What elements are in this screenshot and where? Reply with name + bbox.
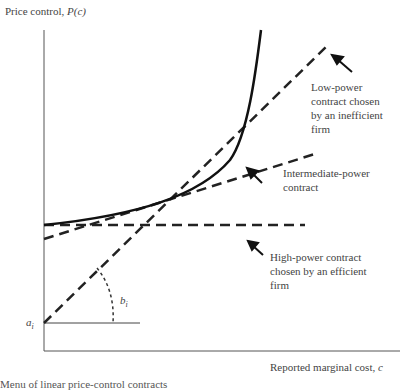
- annotation-line: High-power contract: [270, 250, 367, 264]
- intercept-label: ai: [26, 315, 34, 334]
- y-axis-symbol: P(c): [67, 5, 86, 17]
- cost-curve: [44, 30, 261, 225]
- y-axis-label: Price control, P(c): [5, 4, 86, 18]
- slope-label: bi: [120, 293, 128, 312]
- annotation-line: contract: [283, 180, 370, 194]
- low-power-annotation: Low-power contract chosen by an ineffici…: [311, 80, 383, 136]
- intercept-subscript: i: [32, 322, 34, 331]
- figure-caption: Menu of linear price-control contracts: [0, 378, 167, 390]
- x-axis-label-text: Reported marginal cost,: [270, 361, 378, 373]
- arrow-icon: [248, 241, 263, 255]
- high-power-annotation: High-power contract chosen by an efficie…: [270, 250, 367, 292]
- x-axis-symbol: c: [378, 361, 383, 373]
- intermediate-power-annotation: Intermediate-power contract: [283, 166, 370, 194]
- annotation-line: by an inefficient: [311, 108, 383, 122]
- annotation-line: chosen by an efficient: [270, 264, 367, 278]
- annotation-line: firm: [270, 278, 367, 292]
- arrow-icon: [332, 55, 352, 72]
- annotation-line: Intermediate-power: [283, 166, 370, 180]
- x-axis-label: Reported marginal cost, c: [270, 360, 383, 374]
- annotation-line: Low-power: [311, 80, 383, 94]
- slope-angle-arc: [97, 268, 113, 323]
- y-axis-label-text: Price control,: [5, 5, 67, 17]
- annotation-line: firm: [311, 122, 383, 136]
- slope-subscript: i: [126, 300, 128, 309]
- annotation-line: contract chosen: [311, 94, 383, 108]
